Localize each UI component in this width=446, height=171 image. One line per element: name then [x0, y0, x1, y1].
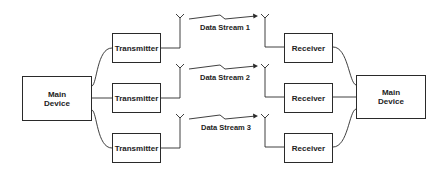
data-stream-2-label: Data Stream 2 — [200, 73, 250, 82]
arrowhead-icon — [253, 64, 258, 69]
data-stream-1-label: Data Stream 1 — [200, 23, 250, 32]
wireless-link-2 — [189, 65, 256, 69]
transmitter-label: Transmitter — [115, 144, 159, 153]
data-stream-3-label: Data Stream 3 — [201, 123, 251, 132]
antenna-icon — [176, 64, 184, 68]
transmitter-label: Transmitter — [115, 94, 159, 103]
antenna-icon — [176, 114, 184, 118]
main-device-label-line2: Device — [44, 99, 70, 108]
arrowhead-icon — [253, 114, 258, 119]
antenna-icon — [176, 14, 184, 18]
transmitter-1: Transmitter — [112, 33, 161, 63]
main-device-sink: Main Device — [356, 75, 426, 119]
link-main-to-tx3 — [92, 110, 112, 148]
main-device-label-line1: Main — [44, 90, 70, 99]
transmitter-3: Transmitter — [112, 133, 161, 163]
transmitter-label: Transmitter — [115, 44, 159, 53]
receiver-label: Receiver — [292, 94, 325, 103]
receiver-3: Receiver — [284, 133, 333, 163]
receiver-label: Receiver — [292, 44, 325, 53]
receiver-1: Receiver — [284, 33, 333, 63]
transmitter-2: Transmitter — [112, 83, 161, 113]
main-device-source: Main Device — [22, 76, 92, 121]
receiver-2: Receiver — [284, 83, 333, 113]
wireless-link-3 — [189, 115, 256, 119]
main-device-label-line1: Main — [378, 88, 404, 97]
arrowhead-icon — [253, 14, 258, 19]
receiver-label: Receiver — [292, 144, 325, 153]
link-main-to-tx1 — [92, 48, 112, 86]
wireless-link-1 — [189, 15, 256, 19]
main-device-label-line2: Device — [378, 97, 404, 106]
